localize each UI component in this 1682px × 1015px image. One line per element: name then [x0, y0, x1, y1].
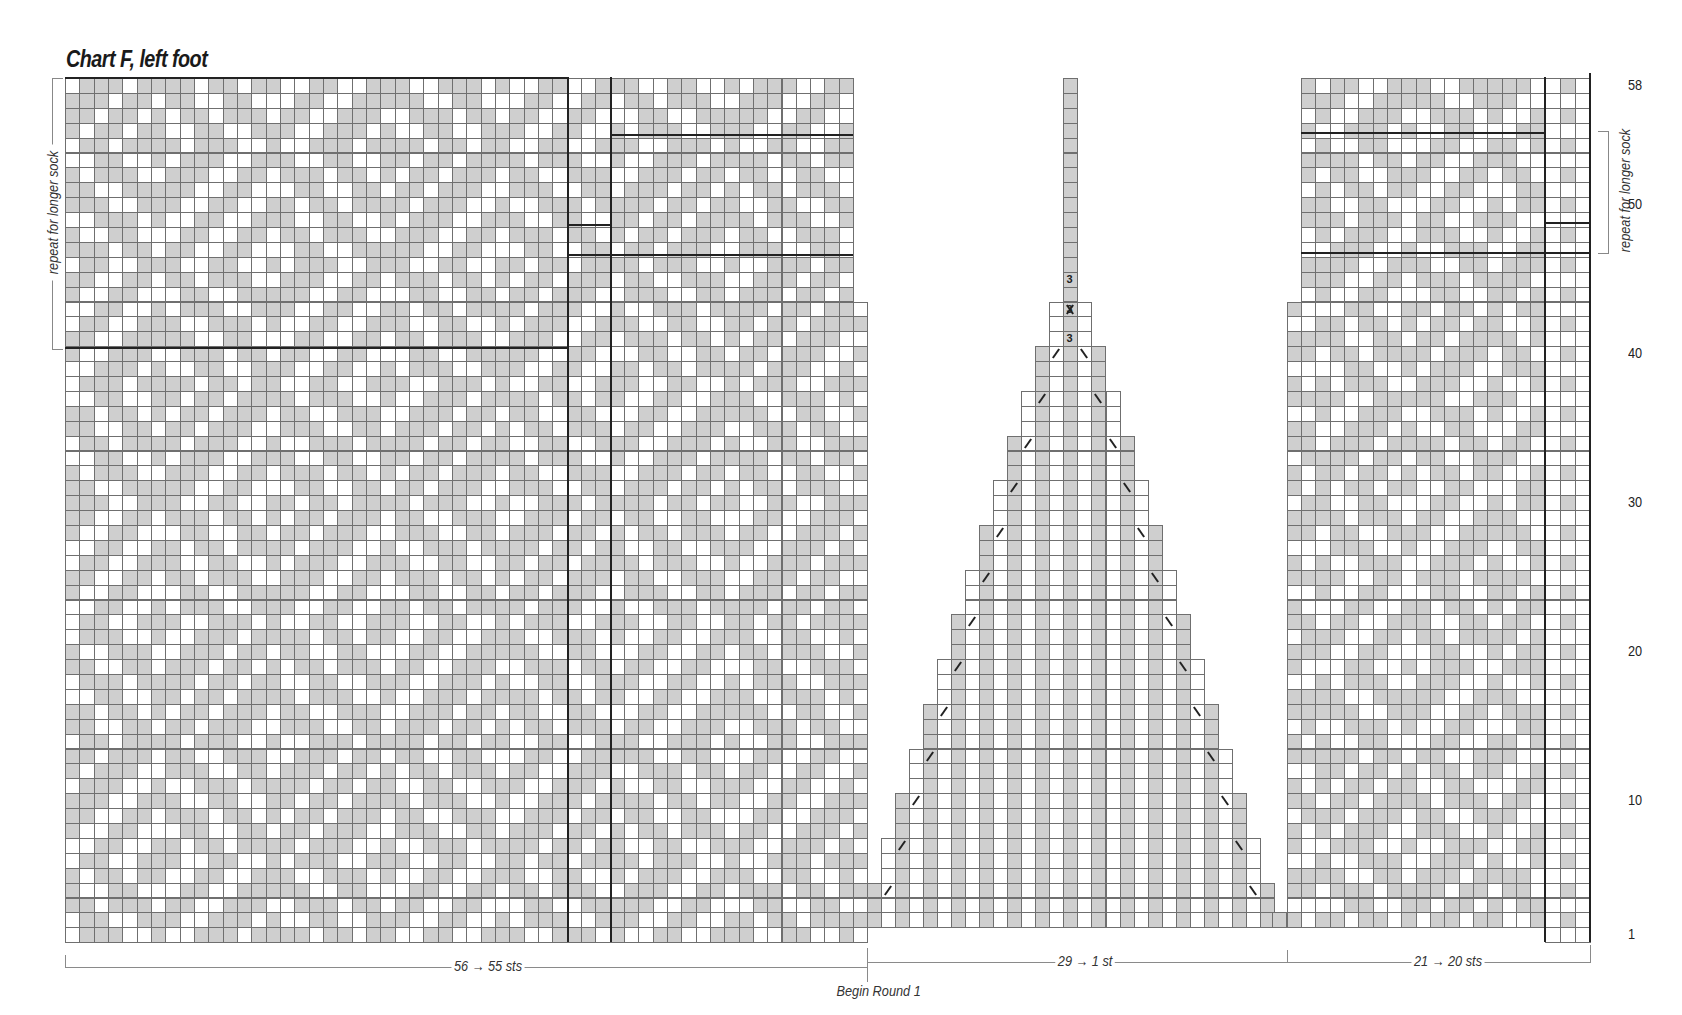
chart-cell: [122, 540, 137, 556]
chart-cell: [638, 78, 653, 94]
chart-cell: [1487, 540, 1502, 556]
chart-cell: [323, 570, 338, 586]
chart-cell: [1473, 570, 1488, 586]
chart-cell: [581, 257, 596, 273]
chart-cell: [108, 257, 123, 273]
chart-cell: [1077, 302, 1092, 318]
chart-cell: [323, 629, 338, 645]
chart-cell: [1545, 421, 1561, 437]
chart-cell: [552, 138, 567, 154]
chart-cell: [237, 704, 252, 720]
chart-cell: [724, 78, 739, 94]
chart-cell: [710, 78, 725, 94]
chart-cell: [796, 600, 811, 616]
chart-cell: [1035, 629, 1050, 645]
chart-cell: [524, 108, 539, 124]
chart-cell: [309, 108, 324, 124]
chart-cell: [337, 674, 352, 690]
chart-cell: [1430, 704, 1445, 720]
chart-cell: [1315, 629, 1330, 645]
chart-cell: [1287, 644, 1302, 660]
chart-cell: [323, 406, 338, 422]
chart-cell: [951, 629, 966, 645]
chart-cell: [1162, 898, 1177, 914]
chart-cell: [395, 257, 410, 273]
chart-cell: [509, 749, 524, 765]
chart-cell: [552, 197, 567, 213]
chart-cell: [151, 823, 166, 839]
chart-cell: [624, 763, 639, 779]
chart-cell: [223, 376, 238, 392]
chart-cell: [208, 763, 223, 779]
chart-cell: [323, 853, 338, 869]
chart-cell: [624, 167, 639, 183]
chart-cell: [237, 883, 252, 899]
chart-cell: [1301, 242, 1316, 258]
chart-cell: [538, 316, 553, 332]
chart-cell: [194, 451, 209, 467]
chart-cell: [667, 451, 682, 467]
chart-cell: [724, 465, 739, 481]
chart-cell: [180, 302, 195, 318]
chart-cell: [337, 376, 352, 392]
chart-cell: [739, 704, 754, 720]
chart-cell: [79, 614, 94, 630]
chart-cell: [782, 257, 797, 273]
chart-cell: [1373, 480, 1388, 496]
chart-cell: [853, 495, 868, 511]
chart-cell: [638, 421, 653, 437]
chart-cell: [280, 689, 295, 705]
chart-cell: [993, 793, 1008, 809]
chart-cell: [937, 734, 952, 750]
chart-cell: [323, 525, 338, 541]
chart-cell: [724, 406, 739, 422]
chart-cell: [294, 763, 309, 779]
chart-cell: [839, 436, 854, 452]
chart-cell: [1502, 123, 1517, 139]
chart-cell: [438, 525, 453, 541]
chart-cell: [423, 763, 438, 779]
chart-cell: [796, 167, 811, 183]
chart-cell: [524, 123, 539, 139]
chart-cell: [309, 242, 324, 258]
chart-cell: [1560, 912, 1576, 928]
chart-cell: [552, 749, 567, 765]
chart-cell: [1545, 912, 1561, 928]
chart-cell: [1358, 257, 1373, 273]
chart-cell: [1459, 749, 1474, 765]
chart-cell: [337, 570, 352, 586]
chart-cell: [853, 808, 868, 824]
chart-cell: [79, 927, 94, 943]
chart-cell: [509, 853, 524, 869]
chart-cell: [452, 391, 467, 407]
chart-cell: [1301, 555, 1316, 571]
chart-cell: [108, 540, 123, 556]
chart-cell: [1287, 421, 1302, 437]
chart-cell: [810, 153, 825, 169]
chart-cell: [1473, 614, 1488, 630]
chart-cell: [280, 331, 295, 347]
chart-cell: [782, 182, 797, 198]
chart-cell: [323, 376, 338, 392]
chart-cell: [337, 778, 352, 794]
chart-cell: [824, 659, 839, 675]
chart-cell: [624, 227, 639, 243]
chart-cell: [1516, 391, 1531, 407]
chart-cell: [495, 257, 510, 273]
chart-cell: [337, 868, 352, 884]
chart-cell: [1315, 272, 1330, 288]
chart-cell: [1516, 302, 1531, 318]
chart-cell: [1487, 570, 1502, 586]
chart-cell: [438, 868, 453, 884]
chart-cell: [937, 763, 952, 779]
chart-cell: [923, 912, 938, 928]
chart-cell: [79, 257, 94, 273]
chart-cell: [352, 138, 367, 154]
chart-cell: [767, 570, 782, 586]
chart-cell: [979, 868, 994, 884]
chart-cell: [1401, 93, 1416, 109]
chart-cell: [696, 912, 711, 928]
chart-cell: [108, 451, 123, 467]
chart-cell: [653, 749, 668, 765]
chart-cell: [1049, 331, 1064, 347]
